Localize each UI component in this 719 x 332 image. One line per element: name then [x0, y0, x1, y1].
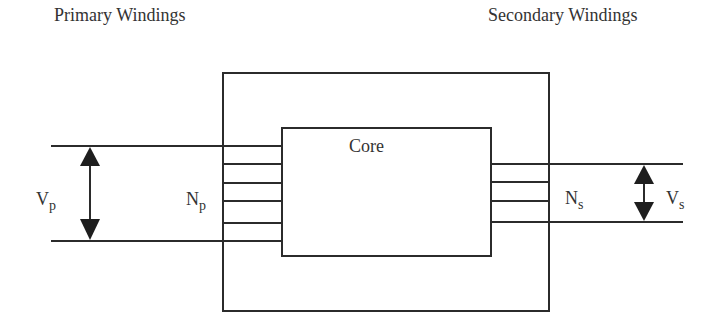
core-block — [282, 128, 491, 256]
secondary-windings — [491, 182, 549, 201]
primary-turns-label: Np — [186, 189, 206, 213]
primary-windings — [223, 164, 282, 223]
secondary-voltage-arrow-down-icon — [634, 202, 654, 221]
primary-heading: Primary Windings — [54, 5, 185, 25]
secondary-voltage-label: Vs — [666, 188, 684, 212]
core-label: Core — [349, 136, 384, 156]
secondary-voltage-arrow-up-icon — [634, 165, 654, 184]
primary-voltage-arrow-down-icon — [80, 219, 100, 240]
secondary-heading: Secondary Windings — [488, 5, 637, 25]
transformer-diagram: Primary Windings Secondary Windings Core… — [0, 0, 719, 332]
secondary-turns-label: Ns — [565, 188, 583, 212]
outer-frame — [223, 73, 549, 311]
primary-voltage-label: Vp — [36, 189, 56, 213]
primary-voltage-arrow-up-icon — [80, 147, 100, 166]
